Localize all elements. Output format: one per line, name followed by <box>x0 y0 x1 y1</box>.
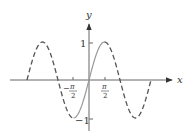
y-axis-label: y <box>85 9 92 20</box>
x-tick-sign-neg: − <box>63 84 70 93</box>
x-axis-label: x <box>177 74 183 85</box>
y-tick-label-1: 1 <box>80 38 86 49</box>
x-tick-denominator-pos: 2 <box>103 92 107 100</box>
graph-canvas: y x 1 −1 − π 2 π 2 <box>0 0 191 137</box>
x-tick-denominator-neg: 2 <box>71 92 75 100</box>
x-tick-numerator-pi: π <box>101 83 107 91</box>
y-tick-label-neg-1: −1 <box>75 115 90 126</box>
sine-graph-figure: y x 1 −1 − π 2 π 2 <box>0 0 191 137</box>
x-tick-numerator-neg-pi: π <box>69 83 75 91</box>
